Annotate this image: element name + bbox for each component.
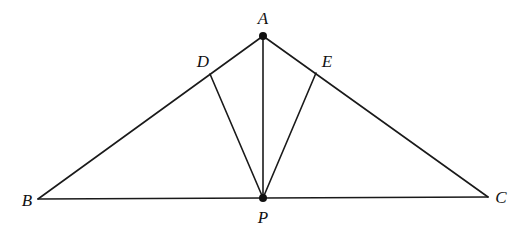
label-e: E: [321, 52, 333, 71]
segment-pe: [263, 73, 316, 198]
segment-pd: [210, 74, 263, 198]
label-p: P: [257, 208, 268, 227]
point-p-dot: [259, 194, 267, 202]
label-a: A: [257, 9, 269, 28]
label-d: D: [196, 52, 210, 71]
point-a-dot: [259, 32, 267, 40]
label-b: B: [22, 191, 33, 210]
geometry-diagram: A B C D E P: [0, 0, 524, 232]
label-c: C: [495, 188, 507, 207]
